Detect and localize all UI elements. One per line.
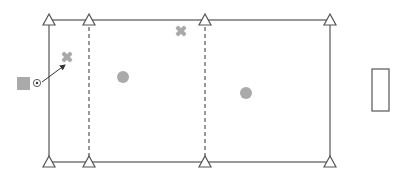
player-circle (240, 87, 252, 99)
field-objects (17, 14, 389, 167)
soccer-ball-icon (33, 79, 40, 86)
player-circle (117, 71, 129, 83)
x-marker-icon (173, 23, 190, 40)
start-square-marker (17, 77, 30, 90)
field-lines (49, 20, 330, 162)
goal (372, 69, 389, 111)
drill-diagram (0, 0, 409, 175)
x-marker-icon (59, 49, 76, 66)
ball-patch (36, 82, 38, 84)
field-boundary (49, 20, 330, 162)
pass-arrow (42, 65, 65, 82)
